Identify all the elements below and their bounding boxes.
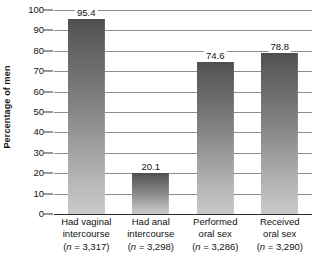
y-tick-label: 70 [18, 66, 44, 76]
sample-size-symbol: n [66, 241, 71, 252]
sample-size-symbol: n [260, 241, 265, 252]
y-tick-mark [44, 132, 53, 133]
category-label: Had analintercourse(n = 3,298) [119, 216, 184, 253]
category-label-line: Had anal [119, 216, 184, 228]
y-tick-label: 10 [18, 189, 44, 199]
y-tick-mark [44, 112, 53, 113]
sample-size-label: (n = 3,298) [119, 241, 184, 253]
y-tick-mark [44, 50, 53, 51]
bar[interactable] [132, 173, 169, 214]
category-label: Performedoral sex(n = 3,286) [183, 216, 248, 253]
category-label-line: oral sex [183, 228, 248, 240]
bar-slot: 78.8 [261, 10, 298, 214]
y-axis-tick-marks [44, 0, 54, 214]
bar-value-label: 74.6 [204, 51, 227, 61]
category-label-line: Performed [183, 216, 248, 228]
y-tick-mark [44, 193, 53, 194]
y-tick-label: 40 [18, 128, 44, 138]
y-tick-mark [44, 30, 53, 31]
category-label-line: Had vaginal [54, 216, 119, 228]
category-label-line: intercourse [54, 228, 119, 240]
y-axis-title: Percentage of men [0, 0, 14, 214]
y-tick-label: 60 [18, 87, 44, 97]
y-tick-label: 90 [18, 26, 44, 36]
bar-value-label: 95.4 [75, 8, 98, 18]
y-tick-label: 0 [18, 209, 44, 219]
bar-slot: 74.6 [197, 10, 234, 214]
category-label-line: Received [248, 216, 313, 228]
sample-size-label: (n = 3,317) [54, 241, 119, 253]
bar-value-label: 78.8 [269, 42, 292, 52]
category-label-line: intercourse [119, 228, 184, 240]
y-tick-mark [44, 173, 53, 174]
y-tick-mark [44, 91, 53, 92]
y-tick-mark [44, 214, 53, 215]
bars-layer: 95.420.174.678.8 [54, 10, 312, 214]
bar-value-label: 20.1 [140, 162, 163, 172]
x-axis-category-labels: Had vaginalintercourse(n = 3,317)Had ana… [54, 216, 312, 263]
y-tick-mark [44, 71, 53, 72]
bar[interactable] [68, 19, 105, 214]
category-label-line: oral sex [248, 228, 313, 240]
y-tick-mark [44, 152, 53, 153]
category-label: Receivedoral sex(n = 3,290) [248, 216, 313, 253]
sample-size-symbol: n [195, 241, 200, 252]
y-tick-label: 100 [18, 5, 44, 15]
bar[interactable] [197, 62, 234, 214]
sample-size-label: (n = 3,290) [248, 241, 313, 253]
bar-slot: 20.1 [132, 10, 169, 214]
plot-area: 95.420.174.678.8 [54, 0, 312, 214]
category-label: Had vaginalintercourse(n = 3,317) [54, 216, 119, 253]
y-tick-label: 80 [18, 46, 44, 56]
bar-chart: Percentage of men 0102030405060708090100… [0, 0, 318, 263]
y-axis-tick-labels: 0102030405060708090100 [14, 0, 44, 214]
bar-slot: 95.4 [68, 10, 105, 214]
sample-size-label: (n = 3,286) [183, 241, 248, 253]
y-tick-label: 20 [18, 168, 44, 178]
y-tick-label: 50 [18, 107, 44, 117]
y-tick-mark [44, 10, 53, 11]
sample-size-symbol: n [131, 241, 136, 252]
bar[interactable] [261, 53, 298, 214]
y-tick-label: 30 [18, 148, 44, 158]
y-axis-title-text: Percentage of men [2, 65, 12, 148]
